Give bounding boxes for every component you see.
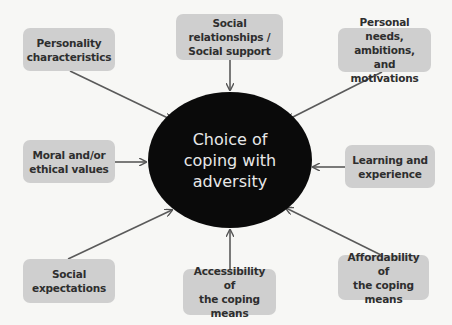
node-social-expectations: Social expectations (23, 259, 115, 303)
node-personality-characteristics: Personality characteristics (23, 28, 115, 71)
node-accessibility: Accessibility of the coping means (183, 269, 276, 315)
node-moral-values: Moral and/or ethical values (23, 140, 115, 183)
node-label: Personal needs, ambitions, and motivatio… (342, 15, 427, 85)
node-label: Social expectations (32, 267, 106, 295)
arrow-personality (70, 71, 172, 120)
node-label: Social relationships / Social support (188, 16, 270, 58)
node-social-relationships: Social relationships / Social support (176, 14, 283, 60)
node-personal-needs: Personal needs, ambitions, and motivatio… (338, 28, 431, 72)
node-label: Affordability of the coping means (342, 250, 425, 306)
node-label: Learning and experience (352, 153, 427, 181)
node-learning-experience: Learning and experience (345, 145, 435, 188)
node-label: Moral and/or ethical values (29, 148, 108, 176)
node-affordability: Affordability of the coping means (338, 255, 429, 300)
arrow-social-expectations (68, 210, 172, 259)
center-node-choice-of-coping: Choice of coping with adversity (148, 92, 312, 228)
arrow-affordability (286, 208, 381, 255)
node-label: Accessibility of the coping means (187, 264, 272, 320)
center-node-label: Choice of coping with adversity (184, 129, 277, 192)
node-label: Personality characteristics (27, 36, 112, 64)
